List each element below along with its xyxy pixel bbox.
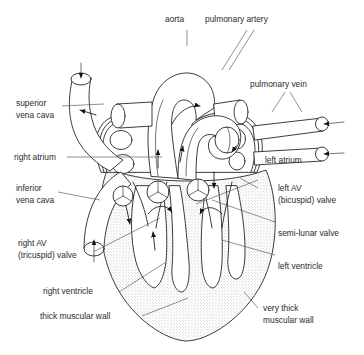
label-thick-muscular-wall: thick muscular wall <box>40 311 110 321</box>
label-right-ventricle: right ventricle <box>43 286 93 296</box>
label-semi-lunar-valve: semi-lunar valve <box>278 228 339 238</box>
label-layer: aorta pulmonary artery pulmonary vein su… <box>0 0 364 355</box>
label-inferior-vena-cava-line2: vena cava <box>16 195 55 205</box>
label-left-av-valve-line1: left AV <box>278 183 302 193</box>
label-left-atrium: left atrium <box>265 155 302 165</box>
label-pulmonary-vein: pulmonary vein <box>250 79 307 89</box>
label-right-atrium: right atrium <box>14 152 56 162</box>
label-very-thick-wall-line1: very thick <box>263 303 299 313</box>
label-pulmonary-artery: pulmonary artery <box>205 14 269 24</box>
label-superior-vena-cava-line2: vena cava <box>16 110 55 120</box>
label-left-av-valve-line2: (bicuspid) valve <box>278 195 337 205</box>
label-right-av-valve-line1: right AV <box>18 238 47 248</box>
label-very-thick-wall-line2: muscular wall <box>263 315 314 325</box>
heart-diagram: aorta pulmonary artery pulmonary vein su… <box>0 0 364 355</box>
label-inferior-vena-cava-line1: inferior <box>16 183 42 193</box>
label-aorta: aorta <box>165 14 184 24</box>
label-right-av-valve-line2: (tricuspid) valve <box>18 250 77 260</box>
label-superior-vena-cava-line1: superior <box>16 98 46 108</box>
label-left-ventricle: left ventricle <box>278 261 323 271</box>
